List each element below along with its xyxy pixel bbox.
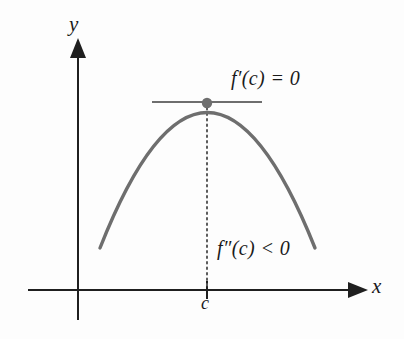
annotation-first-derivative: f′(c) = 0 — [231, 68, 300, 88]
x-axis-label: x — [372, 276, 382, 297]
critical-point-dot — [202, 98, 212, 108]
tick-label-c: c — [201, 294, 209, 312]
diagram-svg — [0, 0, 404, 339]
x-axis-arrowhead — [348, 282, 368, 298]
figure-canvas: f′(c) = 0 f″(c) < 0 y x c — [0, 0, 404, 339]
y-axis-label: y — [69, 14, 79, 35]
annotation-second-derivative: f″(c) < 0 — [217, 238, 290, 258]
y-axis-arrowhead — [70, 38, 86, 58]
